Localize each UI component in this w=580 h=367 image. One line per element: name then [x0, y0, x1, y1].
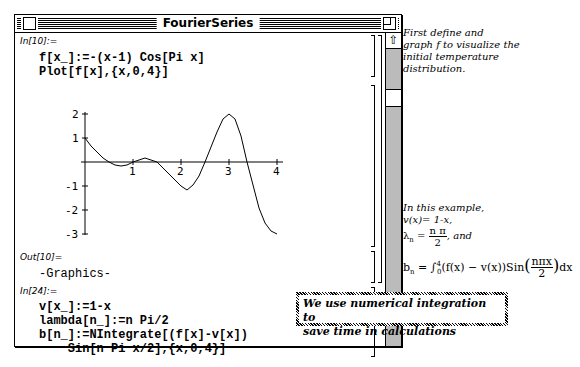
- svg-text:-1: -1: [65, 180, 78, 193]
- code-line[interactable]: v[x_]:=1-x: [39, 300, 111, 314]
- fraction: nπx2: [531, 256, 554, 279]
- callout-line: We use numerical integration to: [303, 297, 501, 325]
- intro-note: First define and graph f to visualize th…: [403, 27, 520, 75]
- denominator: 2: [531, 268, 554, 279]
- equals: =: [414, 230, 429, 241]
- b-symbol: b: [403, 261, 410, 274]
- example-note: In this example,: [403, 202, 484, 214]
- svg-text:2: 2: [177, 165, 184, 178]
- b-definition: bn = ∫40(f(x) − v(x))Sin(nπx2)dx: [403, 256, 573, 279]
- callout-line: save time in calculations: [303, 325, 501, 339]
- svg-text:2: 2: [72, 108, 79, 121]
- svg-text:-2: -2: [65, 204, 78, 217]
- group-bracket[interactable]: [378, 35, 382, 283]
- code-line[interactable]: b[n_]:=NIntegrate[(f[x]-v[x]): [39, 328, 248, 342]
- cell-bracket[interactable]: [371, 85, 375, 247]
- output-label: Out[10]=: [20, 252, 62, 263]
- note-line: First define and: [403, 27, 520, 39]
- and-text: , and: [447, 230, 472, 241]
- numerator: n π: [429, 225, 447, 237]
- svg-text:1: 1: [72, 132, 79, 145]
- code-line[interactable]: lambda[n_]:=n Pi/2: [39, 314, 169, 328]
- note-line: initial temperature: [403, 51, 520, 63]
- scroll-up-icon[interactable]: ⇧: [386, 33, 401, 49]
- integrand: (f(x) − v(x))Sin: [441, 261, 524, 274]
- function-plot: 1 2 3 4 2 1 -1 -2 -3: [15, 15, 385, 245]
- svg-text:4: 4: [273, 165, 280, 178]
- svg-text:1: 1: [129, 165, 136, 178]
- denominator: 2: [429, 237, 447, 248]
- code-line[interactable]: Sin[n Pi x/2],{x,0,4}]: [39, 342, 226, 356]
- svg-text:3: 3: [225, 165, 232, 178]
- svg-text:-3: -3: [65, 228, 78, 241]
- input-label: In[24]:=: [20, 286, 57, 297]
- note-line: graph f to visualize the: [403, 39, 520, 51]
- dx: dx: [559, 261, 572, 274]
- graphics-output: -Graphics-: [39, 267, 111, 281]
- note-line: distribution.: [403, 63, 520, 75]
- cell-bracket[interactable]: [371, 35, 375, 77]
- scroll-thumb[interactable]: [386, 89, 401, 107]
- callout-note: We use numerical integration to save tim…: [296, 292, 508, 326]
- cell-bracket[interactable]: [371, 251, 375, 283]
- fraction: n π2: [429, 225, 447, 248]
- lambda-definition: λn = n π2, and: [403, 225, 472, 248]
- integral-sign: = ∫: [415, 261, 437, 274]
